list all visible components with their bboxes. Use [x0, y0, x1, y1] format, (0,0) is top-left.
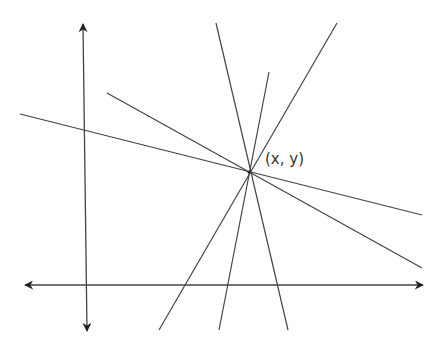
intersection-point — [247, 170, 250, 173]
diagram-svg — [0, 0, 446, 349]
point-label: (x, y) — [265, 150, 304, 168]
line-4 — [219, 72, 269, 330]
line-2 — [107, 93, 422, 268]
line-3 — [216, 23, 288, 330]
diagram-canvas: (x, y) — [0, 0, 446, 349]
line-5 — [159, 23, 337, 330]
line-1 — [20, 114, 422, 215]
concurrent-lines-group — [20, 23, 422, 330]
